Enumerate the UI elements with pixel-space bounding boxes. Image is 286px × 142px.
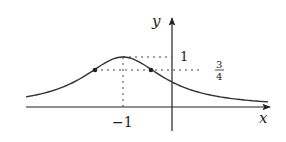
function-graph: y x −1 1 3 4 bbox=[0, 0, 286, 142]
x-tick-label-minus-one: −1 bbox=[112, 114, 133, 130]
inflection-point-left bbox=[93, 68, 98, 73]
x-axis-label: x bbox=[259, 109, 268, 127]
guide-lines bbox=[95, 57, 202, 107]
y-tick-label-one: 1 bbox=[180, 49, 188, 64]
y-axis-label: y bbox=[151, 12, 161, 30]
svg-text:3: 3 bbox=[216, 59, 222, 70]
function-curve bbox=[26, 57, 268, 102]
inflection-point-right bbox=[149, 68, 154, 73]
svg-text:4: 4 bbox=[216, 71, 222, 82]
y-tick-label-three-quarters: 3 4 bbox=[215, 59, 224, 82]
